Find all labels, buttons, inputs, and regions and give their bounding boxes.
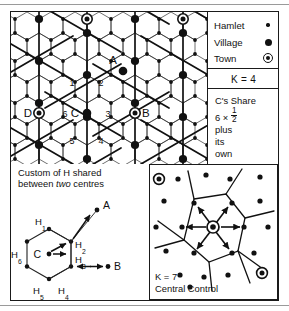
map-hamlet-number-3: 3 [105,109,110,119]
share-line-2: 6 × 12 [215,107,256,124]
centre-a-village-dot [119,67,128,76]
map-hamlet-number-2: 2 [98,78,103,88]
village-symbol-icon [260,39,276,46]
figure-root: D C B A 1 2 3 4 5 6 Hamlet Village Town [0,0,289,311]
legend-row-town: Town [214,49,276,67]
share-line-4: its [215,136,256,148]
c-share-panel: C's Share 6 × 12 plus its own [207,89,278,164]
legend-label-hamlet: Hamlet [214,20,244,31]
k7-central-town-icon [207,221,219,233]
share-fraction: 12 [231,107,238,124]
hex-label-h2: H2 [75,239,86,255]
hex-label-h1: H1 [35,216,46,232]
hex-label-b: B [114,260,121,272]
map-hamlet-number-6: 6 [62,109,67,119]
hex-label-h5: H5 [33,285,44,300]
share-line-5: own [215,148,256,160]
hex-label-c: C [33,248,41,260]
k7-town-icon-se [257,268,268,279]
bottom-rule [0,305,289,306]
legend-row-hamlet: Hamlet [214,16,276,34]
hamlet-symbol-icon [260,23,276,26]
map-hamlet-number-4: 4 [98,136,103,146]
map-label-a: A [109,54,117,66]
map-hamlet-number-5: 5 [69,136,74,146]
k4-lattice-map: D C B A 1 2 3 4 5 6 [11,12,207,164]
legend-label-town: Town [214,53,236,64]
map-label-b: B [142,107,150,119]
k7-value-label: K = 7 [155,271,218,283]
hex-label-h4: H4 [58,285,69,300]
hex-label-h6: H6 [11,249,22,265]
hex-label-a: A [103,199,110,211]
caption-line-2-before: between [18,178,56,189]
k7-caption: Central Control [155,283,218,295]
settlement-legend: Hamlet Village Town [207,12,278,69]
share-fraction-denominator: 2 [231,116,238,124]
k7-town-icon-nw [154,174,165,185]
hex-stems [49,210,97,279]
centre-c-village-dot [83,109,92,118]
top-rule [0,4,289,5]
legend-label-village: Village [214,37,243,48]
k-value-panel: K = 4 [207,69,278,89]
caption-line-2-after: centres [71,178,104,189]
hex-label-h3: H3 [75,254,86,270]
hex-external-b-dot [106,264,111,269]
town-symbol-icon [260,53,276,63]
share-multiplier: 6 × [215,112,231,123]
hex-centre-c-dot [47,252,52,257]
map-label-c: C [71,107,79,119]
c-share-hex-diagram: A B C H1 H2 H3 H4 H5 H6 [11,198,144,300]
map-label-d: D [24,107,32,119]
map-hamlet-number-1: 1 [69,78,74,88]
share-line-3: plus [215,124,256,136]
k-value-label: K = 4 [208,69,279,89]
caption-emphasis: two [56,178,71,189]
